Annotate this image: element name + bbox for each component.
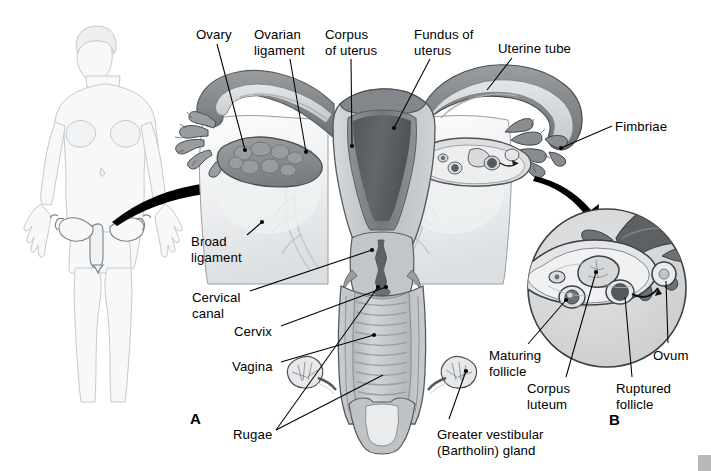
anatomy-illustration [0,0,711,471]
female-body-figure [24,26,183,402]
bartholin-right [428,356,477,394]
label-corpus-of-uterus: Corpus of uterus [325,27,377,58]
label-rugae: Rugae [233,427,272,443]
label-bartholin-gland: Greater vestibular (Bartholin) gland [437,427,544,458]
label-fimbriae: Fimbriae [615,119,667,135]
label-vagina: Vagina [232,359,273,375]
anatomy-figure: Ovary Ovarian ligament Corpus of uterus … [0,0,711,471]
vagina [338,286,425,454]
label-ovarian-ligament: Ovarian ligament [254,27,305,58]
label-broad-ligament: Broad ligament [191,234,242,265]
label-ovary: Ovary [196,27,232,43]
corner-mark [698,455,711,471]
label-fundus-of-uterus: Fundus of uterus [414,27,474,58]
label-ovum: Ovum [653,348,689,364]
label-ruptured-follicle: Ruptured follicle [616,381,671,412]
panel-letter-b: B [609,411,620,428]
label-corpus-luteum: Corpus luteum [527,381,570,412]
label-cervix: Cervix [234,324,272,340]
bartholin-left [287,356,336,394]
label-cervical-canal: Cervical canal [192,290,240,321]
label-uterine-tube: Uterine tube [498,41,571,57]
label-maturing-follicle: Maturing follicle [489,348,541,379]
panel-letter-a: A [190,410,201,427]
inset-circle [518,202,696,367]
